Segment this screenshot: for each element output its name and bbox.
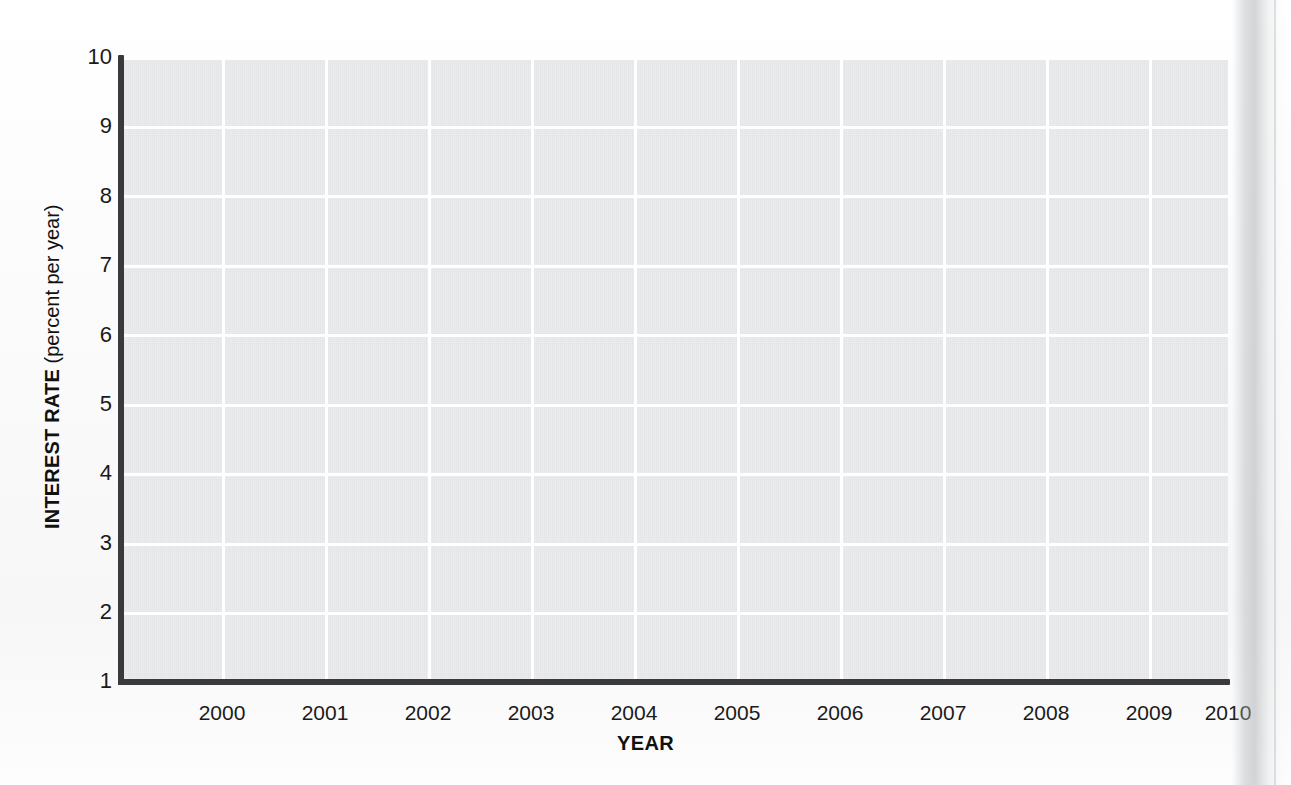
x-tick-label: 2010	[1168, 702, 1288, 723]
y-tick-label: 5	[66, 393, 112, 415]
gridline-horizontal	[121, 334, 1228, 337]
gridline-horizontal	[121, 195, 1228, 198]
gridline-horizontal	[121, 126, 1228, 129]
x-tick-label: 2002	[368, 702, 488, 723]
gridline-vertical	[531, 57, 534, 682]
page-edge-line	[1274, 0, 1276, 785]
gridline-horizontal	[121, 473, 1228, 476]
gridline-vertical	[634, 57, 637, 682]
gridline-vertical	[222, 57, 225, 682]
y-tick-label: 7	[66, 254, 112, 276]
gridline-horizontal	[121, 404, 1228, 407]
x-tick-label: 2006	[780, 702, 900, 723]
gridline-vertical	[1149, 57, 1152, 682]
gridline-vertical	[943, 57, 946, 682]
y-tick-label: 1	[66, 670, 112, 692]
x-tick-label: 2004	[574, 702, 694, 723]
x-tick-label: 2005	[677, 702, 797, 723]
gridline-vertical	[325, 57, 328, 682]
gridline-horizontal	[121, 57, 1228, 60]
y-axis-title-bold: INTEREST RATE	[41, 369, 63, 529]
y-tick-label: 6	[66, 324, 112, 346]
y-tick-label: 3	[66, 532, 112, 554]
gridline-vertical	[737, 57, 740, 682]
y-axis-title: INTEREST RATE (percent per year)	[42, 229, 62, 529]
x-tick-label: 2000	[162, 702, 282, 723]
gridline-vertical	[1046, 57, 1049, 682]
x-tick-label: 2001	[265, 702, 385, 723]
x-axis-title: YEAR	[0, 733, 1291, 753]
chart-page: 10 9 8 7 6 5 4 3 2 1 2000 2001 2002 2003…	[0, 0, 1291, 785]
gridline-horizontal	[121, 265, 1228, 268]
y-tick-label: 2	[66, 601, 112, 623]
x-tick-label: 2008	[986, 702, 1106, 723]
y-axis-line	[118, 55, 124, 685]
y-tick-label: 10	[66, 46, 112, 68]
gridline-horizontal	[121, 612, 1228, 615]
plot-area-texture	[121, 57, 1228, 682]
y-tick-label: 9	[66, 115, 112, 137]
gridline-horizontal	[121, 543, 1228, 546]
gridline-vertical	[428, 57, 431, 682]
y-axis-title-unit: (percent per year)	[41, 204, 63, 369]
x-axis-tick-labels: 2000 2001 2002 2003 2004 2005 2006 2007 …	[0, 702, 1291, 732]
x-tick-label: 2003	[471, 702, 591, 723]
gridline-vertical	[840, 57, 843, 682]
x-tick-label: 2007	[883, 702, 1003, 723]
x-axis-line	[118, 679, 1230, 685]
plot-area	[121, 57, 1228, 682]
page-edge-shadow	[1232, 0, 1291, 785]
y-axis-tick-labels: 10 9 8 7 6 5 4 3 2 1	[58, 0, 112, 785]
y-tick-label: 8	[66, 185, 112, 207]
y-tick-label: 4	[66, 462, 112, 484]
